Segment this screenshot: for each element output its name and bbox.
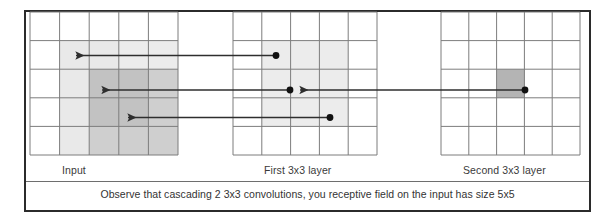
receptive-field-diagram: Input First 3x3 layer Second 3x3 layer O… [0, 0, 611, 220]
caption-divider [26, 181, 589, 182]
figure-caption: Observe that cascading 2 3x3 convolution… [24, 188, 591, 200]
panel-label-input: Input [62, 164, 86, 176]
panel-label-first-layer: First 3x3 layer [264, 164, 331, 176]
panel-label-second-layer: Second 3x3 layer [463, 164, 546, 176]
